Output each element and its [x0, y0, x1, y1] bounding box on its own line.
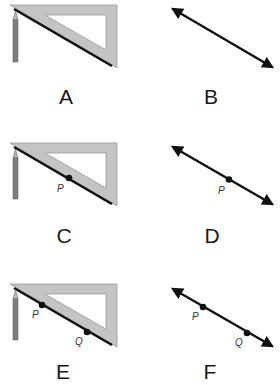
panel-e-pencil-icon — [13, 290, 18, 340]
panel-e-point-q — [84, 329, 91, 336]
panel-e-label: E — [43, 361, 83, 382]
panel-c-point-p — [66, 175, 73, 182]
panel-e-point-p-label: P — [32, 309, 39, 320]
panel-a-set-square — [10, 5, 117, 68]
panel-f-point-p — [200, 304, 207, 311]
panel-e-drawn-line — [14, 288, 112, 345]
panel-e-point-q-label: Q — [75, 336, 83, 347]
panel-c-pencil-icon — [13, 149, 18, 199]
panel-f-point-q — [244, 330, 251, 337]
panel-c-set-square — [10, 143, 117, 206]
panel-e-point-p — [39, 302, 46, 309]
panel-a-label: A — [46, 86, 86, 107]
panel-c-drawn-line — [14, 147, 112, 204]
panel-f-line — [173, 289, 272, 346]
panel-a-pencil-icon — [13, 11, 18, 62]
panel-d-label: D — [192, 225, 232, 246]
panel-c-label: C — [44, 225, 84, 246]
panel-b-line — [173, 9, 272, 67]
panel-d-point-p — [226, 176, 233, 183]
panel-f-label: F — [190, 361, 230, 382]
panel-a-drawn-line — [14, 9, 112, 66]
panel-b-label: B — [191, 86, 231, 107]
panel-e-set-square — [10, 284, 117, 347]
panel-f-point-q-label: Q — [235, 337, 243, 348]
panel-d-point-p-label: P — [218, 185, 225, 196]
panel-c-point-p-label: P — [57, 183, 64, 194]
figure-canvas: P P P Q P Q — [0, 0, 280, 385]
panel-f-point-p-label: P — [192, 311, 199, 322]
